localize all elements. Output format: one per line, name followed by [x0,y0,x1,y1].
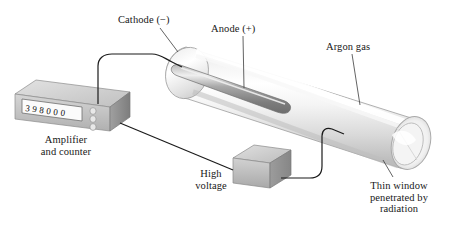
label-amplifier-line2: and counter [23,146,109,158]
label-high-voltage-line1: High [183,168,239,180]
geiger-tube [159,42,437,174]
amplifier-button-2[interactable] [90,116,96,123]
label-thin-window: Thin window penetrated by radiation [352,180,446,215]
label-amplifier-line1: Amplifier [23,134,109,146]
leader-cathode [160,28,178,52]
label-argon-gas: Argon gas [326,41,370,53]
label-cathode: Cathode (−) [118,14,170,26]
geiger-counter-diagram: Cathode (−) Anode (+) Argon gas Amplifie… [0,0,450,227]
label-thin-window-line3: radiation [352,203,446,215]
leader-argon-gas [352,54,360,105]
label-amplifier-and-counter: Amplifier and counter [23,134,109,157]
amplifier-button-1[interactable] [90,108,96,115]
label-anode: Anode (+) [211,23,255,35]
label-thin-window-line2: penetrated by [352,192,446,204]
label-high-voltage: High voltage [183,168,239,191]
wire-amplifier-to-high-voltage [120,123,233,170]
amplifier-button-3[interactable] [90,124,96,131]
label-high-voltage-line2: voltage [183,180,239,192]
label-thin-window-line1: Thin window [352,180,446,192]
high-voltage-box [233,145,291,188]
